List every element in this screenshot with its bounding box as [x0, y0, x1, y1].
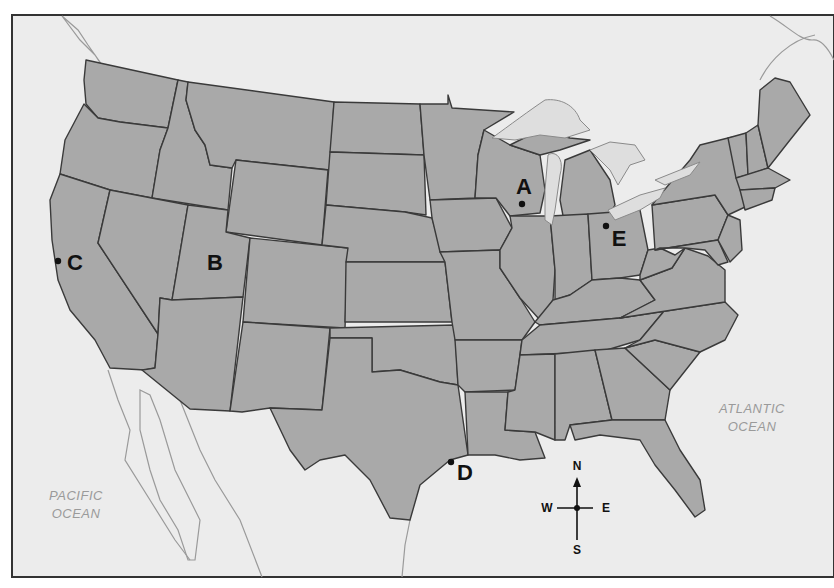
state-wyoming [226, 160, 328, 245]
svg-text:B: B [207, 250, 223, 275]
svg-text:D: D [457, 460, 473, 485]
svg-text:OCEAN: OCEAN [52, 506, 101, 521]
state-south-dakota [326, 152, 426, 215]
svg-text:OCEAN: OCEAN [728, 419, 777, 434]
state-kansas [345, 262, 452, 322]
compass-north: N [573, 459, 582, 473]
svg-text:E: E [612, 226, 627, 251]
svg-text:PACIFIC: PACIFIC [49, 488, 103, 503]
state-arkansas [455, 340, 522, 392]
marker-a-dot [519, 201, 525, 207]
state-colorado [243, 238, 348, 328]
svg-text:A: A [516, 174, 532, 199]
marker-e-dot [603, 223, 609, 229]
compass-south: S [573, 543, 581, 557]
marker-b: B [207, 250, 223, 275]
svg-text:C: C [67, 250, 83, 275]
state-north-dakota [330, 102, 424, 155]
state-new-mexico [230, 322, 330, 412]
compass-west: W [541, 501, 553, 515]
marker-c-dot [55, 258, 61, 264]
us-map: PACIFIC OCEAN ATLANTIC OCEAN A B C D E N… [0, 0, 834, 588]
state-iowa [430, 198, 512, 252]
marker-d-dot [448, 459, 454, 465]
svg-text:ATLANTIC: ATLANTIC [718, 401, 785, 416]
compass-east: E [602, 501, 610, 515]
